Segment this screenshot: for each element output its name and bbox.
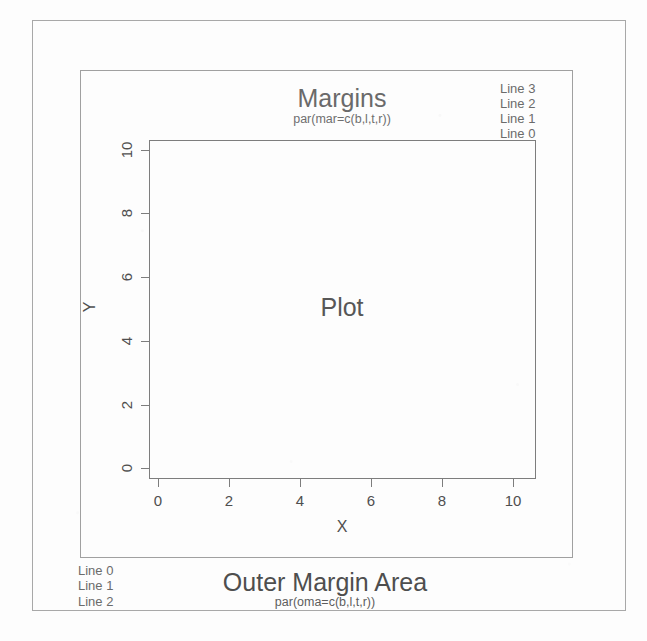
y-tick-4	[141, 341, 149, 342]
x-ticklabel-4: 4	[296, 492, 304, 509]
x-tick-2	[229, 479, 230, 487]
x-tick-4	[300, 479, 301, 487]
y-tick-6	[141, 277, 149, 278]
y-ticklabel-8: 8	[118, 209, 135, 217]
y-ticklabel-0: 0	[118, 464, 135, 472]
x-axis-label: X	[337, 518, 348, 536]
y-tick-10	[141, 150, 149, 151]
x-tick-8	[442, 479, 443, 487]
right-margin-line-2: Line 2	[500, 96, 535, 111]
outer-bottom-line-1: Line 1	[78, 578, 113, 593]
right-margin-line-1: Line 1	[500, 111, 535, 126]
outer-margin-subtitle: par(oma=c(b,l,t,r))	[275, 595, 375, 609]
y-ticklabel-4: 4	[118, 337, 135, 345]
y-tick-2	[141, 405, 149, 406]
x-ticklabel-8: 8	[438, 492, 446, 509]
x-tick-0	[158, 479, 159, 487]
x-tick-6	[371, 479, 372, 487]
outer-bottom-line-2: Line 2	[78, 594, 113, 609]
y-axis-label: Y	[81, 302, 99, 313]
right-margin-line-0: Line 0	[500, 126, 535, 141]
y-ticklabel-10: 10	[118, 142, 135, 159]
margins-title: Margins	[298, 84, 387, 113]
plot-area-label: Plot	[320, 293, 363, 322]
right-margin-line-3: Line 3	[500, 81, 535, 96]
r-margins-diagram: Margins par(mar=c(b,l,t,r)) Line 3 Line …	[0, 0, 647, 641]
x-ticklabel-2: 2	[225, 492, 233, 509]
margins-subtitle: par(mar=c(b,l,t,r))	[293, 112, 391, 126]
outer-bottom-line-0: Line 0	[78, 563, 113, 578]
x-ticklabel-0: 0	[154, 492, 162, 509]
x-tick-10	[513, 479, 514, 487]
x-ticklabel-10: 10	[505, 492, 522, 509]
x-ticklabel-6: 6	[367, 492, 375, 509]
y-tick-8	[141, 213, 149, 214]
y-ticklabel-2: 2	[118, 401, 135, 409]
y-ticklabel-6: 6	[118, 273, 135, 281]
outer-margin-title: Outer Margin Area	[223, 568, 427, 597]
y-tick-0	[141, 468, 149, 469]
